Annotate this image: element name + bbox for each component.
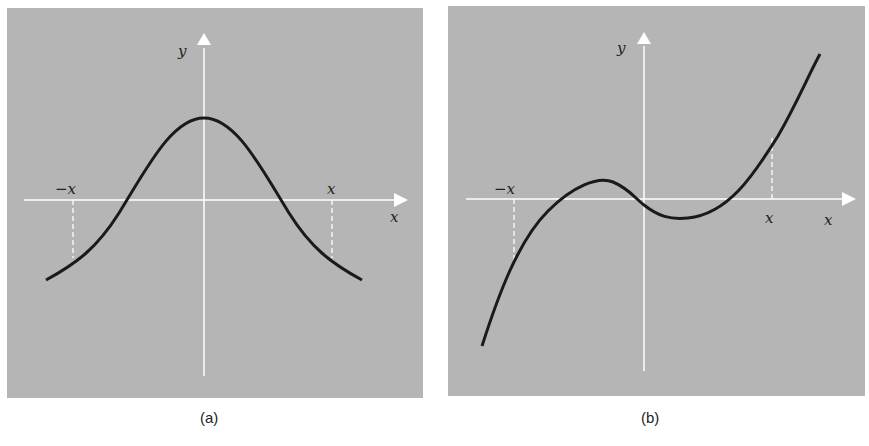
panel-a-svg: y −x x x [7,8,423,398]
x-axis-arrow-icon [394,193,408,207]
y-axis-arrow-icon [197,33,211,45]
caption-a: (a) [200,409,218,426]
panel-b-plot: y −x x x [448,6,865,396]
neg-x-label: −x [55,180,77,198]
y-axis-arrow-icon [637,32,651,44]
x-axis-label: x [390,208,399,226]
x-axis-arrow-icon [842,192,856,206]
y-axis-label: y [616,39,626,57]
y-axis-label: y [177,42,187,60]
panel-b-svg: y −x x x [448,6,865,396]
panel-a-plot: y −x x x [7,8,423,398]
pos-x-label: x [327,180,336,198]
neg-x-label: −x [494,180,516,198]
pos-x-label: x [765,209,774,227]
curve-odd-function [482,54,820,346]
caption-b: (b) [641,409,659,426]
x-axis-label: x [824,211,833,229]
